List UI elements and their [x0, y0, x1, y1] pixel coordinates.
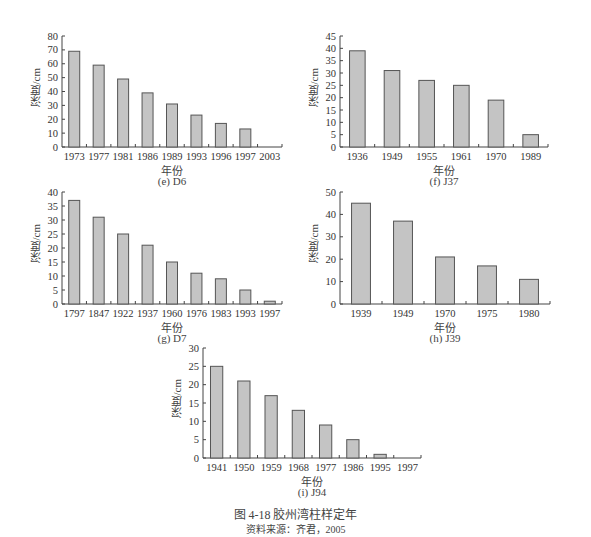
bar [265, 396, 277, 458]
x-tick-label: 1973 [64, 151, 85, 162]
y-tick-label: 30 [48, 100, 59, 111]
x-tick-label: 1970 [435, 308, 456, 319]
y-tick-label: 15 [189, 398, 200, 409]
bar [374, 454, 386, 458]
y-tick-label: 30 [326, 68, 337, 79]
bar [523, 135, 539, 147]
x-tick-label: 1989 [520, 151, 541, 162]
plot-area: 0510152025301941195019591968197719861995… [203, 348, 421, 458]
bar-chart-i: 0510152025301941195019591968197719861995… [203, 348, 421, 458]
y-tick-label: 25 [326, 80, 337, 91]
bar [69, 51, 80, 147]
x-tick-label: 1847 [88, 308, 109, 319]
x-tick-label: 1983 [210, 308, 231, 319]
y-tick-label: 15 [48, 257, 59, 268]
y-tick-label: 0 [331, 299, 336, 310]
bar [167, 104, 178, 147]
bar-chart-h: 0102030405019391949197019751980深度/cm年份(h… [340, 192, 550, 304]
bar [191, 273, 202, 304]
bar [240, 290, 251, 304]
bar [454, 85, 470, 147]
y-tick-label: 5 [331, 129, 336, 140]
bar [118, 234, 129, 304]
y-tick-label: 40 [48, 86, 59, 97]
y-axis-label: 深度/cm [28, 224, 44, 263]
y-tick-label: 10 [326, 276, 337, 287]
chart-subtitle: (h) J39 [340, 332, 550, 344]
x-tick-label: 1939 [351, 308, 372, 319]
y-tick-label: 5 [53, 285, 58, 296]
bar-chart-g: 0510152025303540179718471922193719601976… [62, 192, 282, 304]
x-tick-label: 1977 [315, 462, 336, 473]
plot-area: 0102030405019391949197019751980 [340, 192, 550, 304]
x-tick-label: 1993 [186, 151, 207, 162]
y-tick-label: 0 [53, 142, 58, 153]
y-tick-label: 20 [326, 92, 337, 103]
x-tick-label: 1949 [382, 151, 403, 162]
y-tick-label: 25 [48, 229, 59, 240]
bar [93, 65, 104, 147]
y-axis-label: 深度/cm [169, 379, 185, 418]
x-tick-label: 1937 [137, 308, 158, 319]
y-tick-label: 20 [48, 243, 59, 254]
x-tick-label: 1980 [519, 308, 540, 319]
bar [419, 80, 435, 147]
bar [478, 266, 497, 304]
bar [167, 262, 178, 304]
y-tick-label: 50 [48, 72, 59, 83]
y-tick-label: 0 [53, 299, 58, 310]
bar [142, 245, 153, 304]
y-tick-label: 30 [326, 231, 337, 242]
y-tick-label: 0 [331, 142, 336, 153]
y-tick-label: 35 [326, 55, 337, 66]
y-tick-label: 50 [326, 187, 337, 198]
x-tick-label: 1977 [88, 151, 109, 162]
bar [69, 200, 80, 304]
bar [215, 279, 226, 304]
y-axis-label: 深度/cm [28, 68, 44, 107]
bar [352, 203, 371, 304]
y-tick-label: 45 [326, 31, 337, 42]
x-tick-label: 1960 [162, 308, 183, 319]
x-tick-label: 1981 [113, 151, 134, 162]
bar [384, 71, 400, 147]
x-tick-label: 1986 [342, 462, 363, 473]
x-tick-label: 1986 [137, 151, 158, 162]
y-tick-label: 10 [48, 128, 59, 139]
y-tick-label: 15 [326, 105, 337, 116]
bar [436, 257, 455, 304]
x-tick-label: 1797 [64, 308, 85, 319]
y-tick-label: 40 [326, 209, 337, 220]
y-tick-label: 10 [48, 271, 59, 282]
chart-subtitle: (i) J94 [203, 486, 421, 498]
y-tick-label: 40 [48, 187, 59, 198]
x-tick-label: 1959 [261, 462, 282, 473]
bar [520, 279, 539, 304]
bar [210, 366, 222, 458]
x-tick-label: 1989 [162, 151, 183, 162]
bar [238, 381, 250, 458]
x-tick-label: 1922 [113, 308, 134, 319]
y-tick-label: 25 [189, 361, 200, 372]
y-tick-label: 30 [189, 343, 200, 354]
y-tick-label: 40 [326, 43, 337, 54]
x-tick-label: 1976 [186, 308, 207, 319]
y-axis-label: 深度/cm [306, 68, 322, 107]
bar-chart-e: 0102030405060708019731977198119861989199… [62, 36, 282, 147]
x-tick-label: 1995 [370, 462, 391, 473]
bar [264, 301, 275, 304]
bar [319, 425, 331, 458]
x-tick-label: 1941 [206, 462, 227, 473]
x-tick-label: 1997 [259, 308, 280, 319]
figure-source: 资料来源：齐君，2005 [0, 521, 591, 536]
y-axis-label: 深度/cm [306, 224, 322, 263]
chart-subtitle: (f) J37 [340, 175, 548, 187]
x-tick-label: 2003 [259, 151, 280, 162]
x-tick-label: 1996 [210, 151, 231, 162]
y-tick-label: 10 [326, 117, 337, 128]
bar [292, 410, 304, 458]
bar [488, 100, 504, 147]
y-tick-label: 20 [48, 114, 59, 125]
bar [142, 93, 153, 147]
x-tick-label: 1993 [235, 308, 256, 319]
